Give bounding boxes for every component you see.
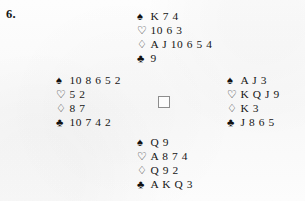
west-diamond-ranks: 8 7 xyxy=(67,101,86,115)
club-suit-icon: ♣ xyxy=(56,115,67,129)
club-suit-icon: ♣ xyxy=(227,115,238,129)
west-heart-ranks: 5 2 xyxy=(67,87,86,101)
compass-center-box xyxy=(158,96,170,108)
east-spade-line: ♠ A J 3 xyxy=(227,73,280,87)
west-spade-line: ♠ 10 8 6 5 2 xyxy=(56,73,121,87)
east-hand: ♠ A J 3 ♡ K Q J 9 ♢ K 3 ♣ J 8 6 5 xyxy=(227,73,280,129)
west-hand: ♠ 10 8 6 5 2 ♡ 5 2 ♢ 8 7 ♣ 10 7 4 2 xyxy=(56,73,121,129)
heart-suit-icon: ♡ xyxy=(137,149,148,163)
problem-number: 6. xyxy=(6,8,16,21)
diamond-suit-icon: ♢ xyxy=(227,101,238,115)
north-spade-ranks: K 7 4 xyxy=(148,9,179,23)
south-club-ranks: A K Q 3 xyxy=(148,177,193,191)
spade-suit-icon: ♠ xyxy=(137,9,148,23)
north-heart-ranks: 10 6 3 xyxy=(148,23,183,37)
west-heart-line: ♡ 5 2 xyxy=(56,87,121,101)
east-club-line: ♣ J 8 6 5 xyxy=(227,115,280,129)
east-spade-ranks: A J 3 xyxy=(238,73,267,87)
south-hand: ♠ Q 9 ♡ A 8 7 4 ♢ Q 9 2 ♣ A K Q 3 xyxy=(137,135,193,191)
diamond-suit-icon: ♢ xyxy=(56,101,67,115)
south-diamond-ranks: Q 9 2 xyxy=(148,163,179,177)
east-diamond-line: ♢ K 3 xyxy=(227,101,280,115)
north-spade-line: ♠ K 7 4 xyxy=(137,9,212,23)
spade-suit-icon: ♠ xyxy=(227,73,238,87)
spade-suit-icon: ♠ xyxy=(56,73,67,87)
east-heart-line: ♡ K Q J 9 xyxy=(227,87,280,101)
north-hand: ♠ K 7 4 ♡ 10 6 3 ♢ A J 10 6 5 4 ♣ 9 xyxy=(137,9,212,65)
club-suit-icon: ♣ xyxy=(137,51,148,65)
west-club-line: ♣ 10 7 4 2 xyxy=(56,115,121,129)
heart-suit-icon: ♡ xyxy=(56,87,67,101)
west-diamond-line: ♢ 8 7 xyxy=(56,101,121,115)
north-diamond-ranks: A J 10 6 5 4 xyxy=(148,37,212,51)
east-diamond-ranks: K 3 xyxy=(238,101,259,115)
east-heart-ranks: K Q J 9 xyxy=(238,87,280,101)
south-spade-line: ♠ Q 9 xyxy=(137,135,193,149)
north-diamond-line: ♢ A J 10 6 5 4 xyxy=(137,37,212,51)
west-spade-ranks: 10 8 6 5 2 xyxy=(67,73,121,87)
heart-suit-icon: ♡ xyxy=(227,87,238,101)
club-suit-icon: ♣ xyxy=(137,177,148,191)
east-club-ranks: J 8 6 5 xyxy=(238,115,275,129)
south-club-line: ♣ A K Q 3 xyxy=(137,177,193,191)
diamond-suit-icon: ♢ xyxy=(137,37,148,51)
north-club-line: ♣ 9 xyxy=(137,51,212,65)
north-club-ranks: 9 xyxy=(148,51,157,65)
spade-suit-icon: ♠ xyxy=(137,135,148,149)
south-spade-ranks: Q 9 xyxy=(148,135,169,149)
south-heart-ranks: A 8 7 4 xyxy=(148,149,188,163)
diamond-suit-icon: ♢ xyxy=(137,163,148,177)
south-diamond-line: ♢ Q 9 2 xyxy=(137,163,193,177)
north-heart-line: ♡ 10 6 3 xyxy=(137,23,212,37)
south-heart-line: ♡ A 8 7 4 xyxy=(137,149,193,163)
heart-suit-icon: ♡ xyxy=(137,23,148,37)
west-club-ranks: 10 7 4 2 xyxy=(67,115,111,129)
